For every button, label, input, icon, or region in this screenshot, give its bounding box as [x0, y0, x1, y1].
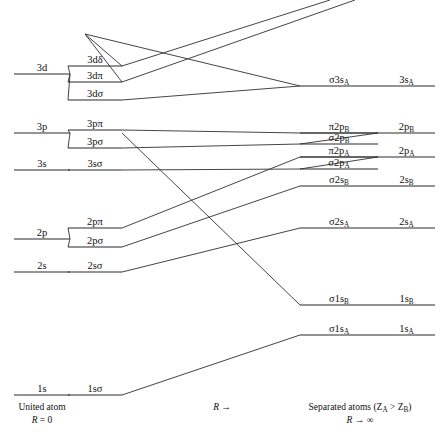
conn-3d-to-3ddelta: [68, 66, 70, 74]
conn-2p-to-2psigma: [68, 239, 70, 247]
level-label-3s-A: 3sA: [399, 74, 414, 87]
level-label-2p-A: 2pA: [399, 145, 416, 158]
level-labels-group: 3d3p3s2p2s1s3dδ3dπ3dσ3pπ3pσ3sσ2pπ2pσ2sσ1…: [37, 54, 415, 394]
level-label-1s: 1s: [37, 383, 46, 394]
conn-3slope-B: [122, 133, 300, 305]
conn-2psigma-right: [122, 186, 300, 247]
level-label-3s: 3s: [37, 158, 46, 169]
separated-atoms-caption: Separated atoms (ZA > ZB): [309, 402, 412, 414]
level-label-2p-B: 2pB: [399, 121, 415, 134]
level-label-1s-sigma: 1sσ: [88, 383, 103, 394]
united-atom-caption: United atom: [18, 402, 66, 412]
separated-atoms-caption-sub: R → ∞: [346, 415, 374, 425]
conn-1ssigma-right: [122, 335, 300, 395]
conn-3ddelta-right: [122, 0, 330, 66]
diagram-canvas: 3d3p3s2p2s1s3dδ3dπ3dσ3pπ3pσ3sσ2pπ2pσ2sσ1…: [0, 0, 441, 438]
conn-2p-to-2ppi: [68, 228, 70, 239]
conn-3dpi-right: [122, 0, 355, 82]
level-label-3d: 3d: [37, 62, 48, 73]
level-label-sigma-2p-A: σ2pA: [328, 157, 350, 170]
conn-top-desc: [85, 34, 300, 86]
energy-level-lines-group: [14, 66, 435, 395]
level-label-sigma-1s-B: σ1sB: [329, 293, 349, 306]
level-label-3p-sigma: 3pσ: [87, 136, 104, 147]
level-label-3s-sigma: 3sσ: [88, 158, 103, 169]
level-label-2p-pi: 2pπ: [87, 216, 104, 227]
level-label-2p-sigma: 2pσ: [87, 235, 104, 246]
level-label-sigma-3s-A: σ3sA: [329, 74, 350, 87]
caption-separated-atoms: Separated atoms (ZA > ZB) R → ∞: [309, 402, 412, 425]
r-axis-caption: R →: [212, 402, 231, 412]
level-label-sigma-1s-A: σ1sA: [329, 323, 350, 336]
level-label-3p: 3p: [37, 121, 48, 132]
correlation-diagram: 3d3p3s2p2s1s3dδ3dπ3dσ3pπ3pσ3sσ2pπ2pσ2sσ1…: [0, 0, 441, 438]
level-label-3d-sigma: 3dσ: [87, 88, 104, 99]
level-label-2s-B: 2sB: [399, 174, 413, 187]
level-label-1s-B: 1sB: [399, 293, 413, 306]
conn-3ppi-right: [122, 130, 300, 133]
conn-3dsigma-right: [122, 86, 300, 100]
level-label-2s-sigma: 2sσ: [88, 260, 103, 271]
level-label-sigma-2s-B: σ2sB: [329, 174, 349, 187]
united-atom-caption-sub: R = 0: [31, 415, 53, 425]
connector-lines-group: [68, 0, 378, 395]
conn-3p-to-3psigma: [68, 133, 70, 148]
conn-2ppi-right: [122, 157, 300, 228]
level-label-sigma-2s-A: σ2sA: [329, 216, 350, 229]
conn-3ssigma-right: [122, 169, 300, 170]
level-label-1s-A: 1sA: [399, 323, 414, 336]
level-label-3d-pi: 3dπ: [87, 70, 104, 81]
conn-3psigma-right: [122, 144, 300, 148]
level-label-3p-pi: 3pπ: [87, 118, 104, 129]
level-label-2p: 2p: [37, 227, 48, 238]
level-label-2s-A: 2sA: [399, 216, 414, 229]
conn-2ssigma-right: [122, 228, 300, 272]
caption-middle-axis: R →: [212, 402, 231, 412]
level-label-3d-delta: 3dδ: [87, 54, 103, 65]
caption-united-atom: United atom R = 0: [18, 402, 66, 425]
level-label-2s: 2s: [37, 260, 46, 271]
